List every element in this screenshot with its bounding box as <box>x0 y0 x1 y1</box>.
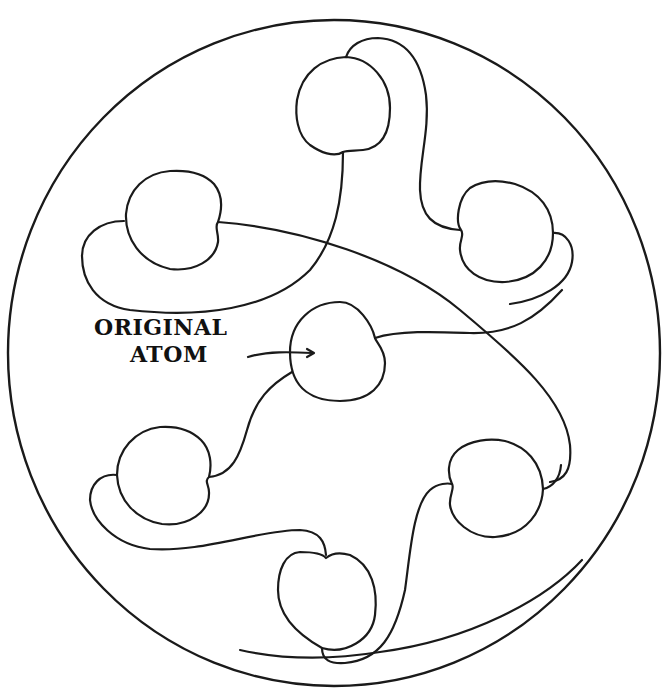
bond-top-to-upper-left <box>82 152 343 313</box>
outer-circle <box>8 20 660 686</box>
atom-lower-left-heart <box>117 427 210 525</box>
atom-bottom-heart <box>278 552 376 650</box>
atom-diagram: ORIGINAL ATOM <box>0 0 665 694</box>
atom-upper-left-heart <box>126 171 221 270</box>
original-atom-label-line1: ORIGINAL <box>94 316 227 338</box>
bond-lower-right-loop <box>543 465 561 489</box>
bond-right-to-bottom-sweep <box>240 560 582 658</box>
original-atom-label-line2: ATOM <box>130 343 208 365</box>
label-arrow <box>248 352 313 357</box>
original-atom-heart <box>290 302 385 401</box>
bond-bottom-to-lower-right <box>322 484 452 664</box>
diagram-svg <box>0 0 665 694</box>
atom-top-heart <box>296 57 390 154</box>
bond-upper-right-loop <box>510 233 573 304</box>
atom-upper-right-heart <box>458 181 553 282</box>
bond-top-loop <box>346 38 460 230</box>
bond-original-to-lower-left <box>209 372 292 477</box>
atom-lower-right-heart <box>449 440 543 537</box>
